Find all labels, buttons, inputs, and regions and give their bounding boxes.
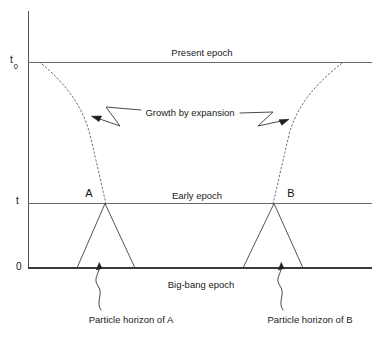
growth-arrowhead-left [92,116,102,122]
worldline-dashed-b [273,63,343,205]
spacetime-diagram: t0 t 0 Present epoch Early epoch Big-ban… [0,0,386,337]
horizon-arrowhead-b [278,263,284,271]
axis-tick-t0-subscript: 0 [14,62,18,71]
present-epoch-label: Present epoch [171,48,232,58]
growth-arrowhead-right [279,119,289,125]
axis-tick-t-base: t [16,195,19,206]
particle-horizon-label-b: Particle horizon of B [267,315,352,325]
observer-label-b: B [287,188,294,199]
observer-label-a: A [85,188,92,199]
growth-by-expansion-label: Growth by expansion [145,108,234,118]
particle-horizon-triangle-b [243,204,303,269]
growth-leader-right [240,112,286,126]
axis-tick-t0-base: t [10,54,13,65]
early-epoch-label: Early epoch [172,191,222,201]
axis-tick-label-t: t [16,196,19,206]
particle-horizon-triangle-a [77,204,135,269]
particle-horizon-label-a: Particle horizon of A [89,315,174,325]
horizon-leader-wave-b [278,266,283,310]
worldline-dashed-a [40,63,106,205]
horizon-leader-wave-a [96,266,101,310]
bigbang-epoch-label: Big-bang epoch [168,280,235,290]
axis-tick-label-zero: 0 [16,262,22,272]
horizon-arrowhead-a [96,263,102,271]
axis-tick-label-t0: t0 [10,55,17,68]
